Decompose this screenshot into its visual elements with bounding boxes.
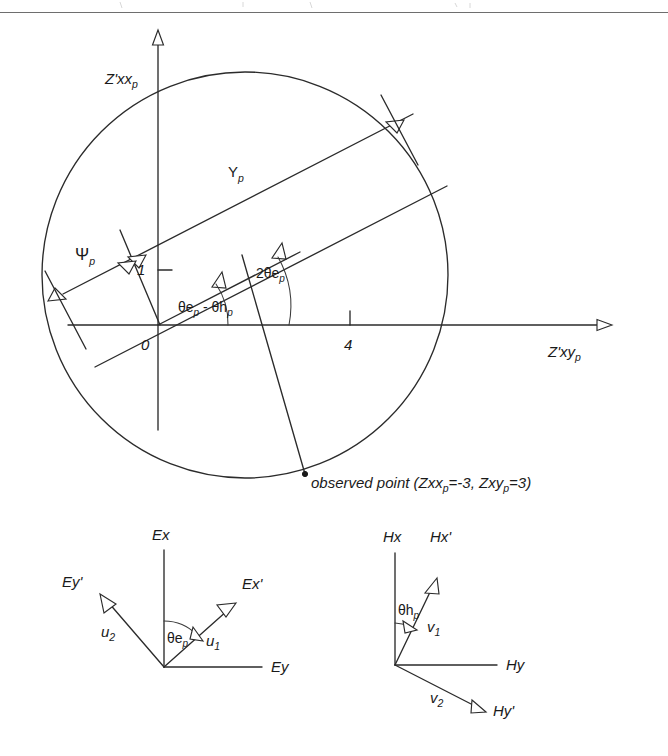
e-vector-ex-prime-arrowhead xyxy=(217,603,236,617)
mohr-observed-point-marker xyxy=(302,471,307,476)
mohr-origin-label: 0 xyxy=(141,336,150,353)
h-component-v1-label: v1 xyxy=(427,618,440,638)
h-field-vector-diagram: Hx Hy Hx' Hy' v1 v2 θhp xyxy=(383,528,526,719)
mohr-x-axis-label: Z'xyp xyxy=(547,343,581,363)
e-angle-label: θep xyxy=(167,630,189,649)
mohr-small-angle-label: θep - θhp xyxy=(178,299,233,318)
mohr-observed-point-chord xyxy=(242,255,305,474)
mohr-observed-point-label: observed point (Zxxp=-3, Zxyp=3) xyxy=(311,474,531,494)
e-axis-ey-label: Ey xyxy=(271,658,290,675)
e-field-vector-diagram: Ex Ey Ex' Ey' u1 u2 θep xyxy=(62,526,290,675)
figure-root: Z'xxp Z'xyp 0 1 4 Ψp Yp θep - θhp 2θep o… xyxy=(0,0,668,756)
e-component-u1-label: u1 xyxy=(206,632,220,652)
h-vector-hx-prime-arrowhead xyxy=(425,578,439,594)
h-vector-hy-prime-label: Hy' xyxy=(493,702,515,719)
h-component-v2-label: v2 xyxy=(430,689,444,709)
h-vector-hy-prime-arrowhead xyxy=(471,700,486,713)
e-vector-ey-prime xyxy=(108,602,164,667)
mohr-y-tick-label: 1 xyxy=(137,261,145,278)
mohr-circle xyxy=(42,72,448,478)
mohr-y-axis-label: Z'xxp xyxy=(104,70,138,90)
e-component-u2-label: u2 xyxy=(101,623,115,643)
mohr-y-axis-arrowhead xyxy=(153,30,164,45)
e-vector-ex-prime-label: Ex' xyxy=(242,575,264,592)
mohr-large-angle-arrowhead xyxy=(272,243,286,259)
mohr-circle-diagram: Z'xxp Z'xyp 0 1 4 Ψp Yp θep - θhp 2θep o… xyxy=(42,30,612,494)
mohr-x-tick-label: 4 xyxy=(344,336,352,353)
mohr-yp-label: Yp xyxy=(228,163,244,184)
mohr-small-angle-arrowhead xyxy=(212,272,226,288)
mohr-x-axis-arrowhead xyxy=(597,320,612,331)
h-axis-hy-label: Hy xyxy=(506,656,526,673)
e-vector-ey-prime-arrowhead xyxy=(100,594,116,613)
mohr-yp-band-upper-chord xyxy=(63,114,413,294)
h-angle-label: θhp xyxy=(398,602,420,621)
cut-off-text-remnants xyxy=(120,2,470,8)
h-vector-hx-prime-label: Hx' xyxy=(430,528,452,545)
e-vector-ey-prime-label: Ey' xyxy=(62,573,84,590)
e-axis-ex-label: Ex xyxy=(152,526,170,543)
mohr-psi-inner-arrowhead-2 xyxy=(118,261,136,274)
mohr-psi-label: Ψp xyxy=(75,245,95,267)
mohr-large-angle-label: 2θep xyxy=(256,265,285,284)
h-axis-hx-label: Hx xyxy=(383,528,402,545)
